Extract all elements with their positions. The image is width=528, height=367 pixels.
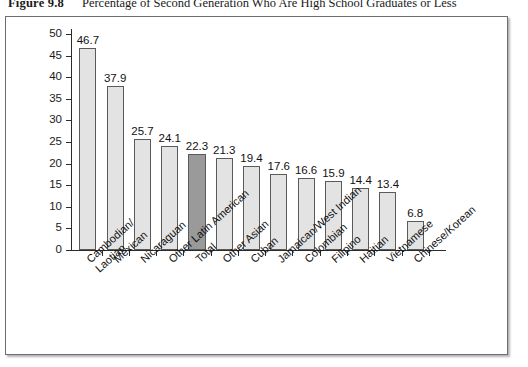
y-tick-mark <box>66 77 71 78</box>
y-tick-label: 25 <box>36 136 62 148</box>
y-tick-label: 30 <box>36 114 62 126</box>
bar-value-label: 37.9 <box>99 73 131 85</box>
y-tick-mark <box>66 207 71 208</box>
figure-number: Figure 9.8 <box>8 0 64 10</box>
y-tick-mark <box>66 120 71 121</box>
y-tick-mark <box>66 99 71 100</box>
y-tick: 5 <box>6 228 71 229</box>
y-tick: 35 <box>6 99 71 100</box>
figure-caption-text: Percentage of Second Generation Who Are … <box>82 0 457 10</box>
y-axis-line <box>71 29 72 251</box>
y-tick-label: 50 <box>36 28 62 40</box>
y-tick-mark <box>66 56 71 57</box>
bar-value-label: 46.7 <box>72 35 104 47</box>
y-tick-mark <box>66 164 71 165</box>
y-tick-label: 5 <box>36 222 62 234</box>
y-tick: 0 <box>6 250 71 251</box>
bar <box>79 48 96 250</box>
y-tick: 50 <box>6 34 71 35</box>
y-tick-label: 10 <box>36 201 62 213</box>
y-tick-mark <box>66 250 71 251</box>
y-tick: 10 <box>6 207 71 208</box>
y-tick: 40 <box>6 77 71 78</box>
y-tick-mark <box>66 185 71 186</box>
bar-value-label: 13.4 <box>372 179 404 191</box>
y-tick-label: 15 <box>36 179 62 191</box>
y-tick: 15 <box>6 185 71 186</box>
y-tick-label: 0 <box>36 244 62 256</box>
y-tick-label: 40 <box>36 71 62 83</box>
y-tick-mark <box>66 228 71 229</box>
y-tick: 25 <box>6 142 71 143</box>
y-tick: 30 <box>6 120 71 121</box>
chart-panel: 05101520253035404550 46.737.925.724.122.… <box>5 16 508 355</box>
y-tick: 20 <box>6 164 71 165</box>
y-tick-label: 20 <box>36 158 62 170</box>
y-tick-mark <box>66 142 71 143</box>
figure-caption: Figure 9.8Percentage of Second Generatio… <box>8 0 520 12</box>
y-tick: 45 <box>6 56 71 57</box>
y-tick-label: 35 <box>36 93 62 105</box>
y-tick-mark <box>66 34 71 35</box>
chart-plot-area: 05101520253035404550 46.737.925.724.122.… <box>6 17 509 356</box>
y-tick-label: 45 <box>36 50 62 62</box>
